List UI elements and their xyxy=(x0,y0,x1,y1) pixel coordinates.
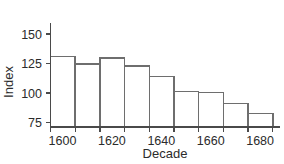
bars-group xyxy=(51,56,273,127)
bar-chart-figure: 75100125150 16001620164016601680 Index D… xyxy=(0,0,284,164)
bar-1670 xyxy=(223,104,248,127)
chart-canvas: 75100125150 16001620164016601680 Index D… xyxy=(0,0,284,164)
bar-1620 xyxy=(100,58,125,127)
bar-1610 xyxy=(75,64,100,127)
y-tick-label-150: 150 xyxy=(21,28,42,42)
y-axis-title: Index xyxy=(1,66,16,98)
bar-1600 xyxy=(51,56,76,127)
bar-1630 xyxy=(125,66,150,127)
x-tick-label-1600: 1600 xyxy=(49,134,77,148)
bar-1660 xyxy=(199,92,224,127)
bar-1680 xyxy=(248,114,273,127)
bar-1640 xyxy=(149,76,174,127)
x-tick-label-1660: 1660 xyxy=(197,134,225,148)
bar-1650 xyxy=(174,91,199,127)
y-tick-label-100: 100 xyxy=(21,87,42,101)
x-axis-title: Decade xyxy=(143,146,188,161)
x-axis-ticks: 16001620164016601680 xyxy=(49,127,274,148)
y-tick-label-75: 75 xyxy=(28,116,42,130)
x-tick-label-1620: 1620 xyxy=(98,134,126,148)
x-tick-label-1680: 1680 xyxy=(246,134,274,148)
y-axis-ticks: 75100125150 xyxy=(21,28,50,131)
y-tick-label-125: 125 xyxy=(21,57,42,71)
